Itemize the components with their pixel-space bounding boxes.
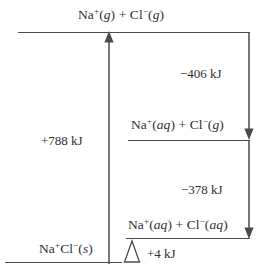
level-line-aq-na-gas-cl [128, 140, 250, 141]
lattice-energy-label: +788 kJ [41, 134, 83, 147]
na-hydration-label: −406 kJ [180, 67, 222, 80]
level-line-gas-ions [18, 32, 250, 33]
state-label-solid-salt: Na+Cl−(s) [39, 242, 93, 256]
cl-hydration-label: −378 kJ [181, 183, 223, 196]
state-label-aq-ions: Na+(aq) + Cl−(aq) [128, 218, 228, 232]
lattice-energy-arrow-icon [100, 30, 118, 264]
net-energy-arrow-icon [122, 240, 142, 264]
level-line-aq-ions [126, 238, 250, 239]
energy-level-diagram: Na+(g) + Cl−(g) +788 kJ −406 kJ Na+(aq) … [0, 0, 266, 279]
na-hydration-arrow-icon [240, 32, 258, 142]
level-line-solid-salt [5, 262, 122, 263]
net-energy-label: +4 kJ [147, 247, 176, 260]
state-label-aq-na-gas-cl: Na+(aq) + Cl−(g) [131, 118, 224, 132]
state-label-gas-ions: Na+(g) + Cl−(g) [78, 8, 164, 22]
cl-hydration-arrow-icon [240, 141, 258, 241]
